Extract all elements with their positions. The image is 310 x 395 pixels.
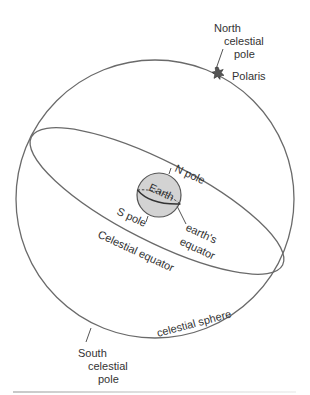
polaris-label: Polaris xyxy=(232,70,266,82)
north-celestial-pole-label-3: pole xyxy=(234,48,255,60)
earth: Earth xyxy=(137,168,181,222)
bottom-divider xyxy=(13,391,296,393)
south-celestial-pole-label-2: celestial xyxy=(88,360,128,372)
north-celestial-pole-leader xyxy=(216,49,223,69)
n-pole-tick xyxy=(169,168,171,174)
south-celestial-pole-label-1: South xyxy=(78,347,107,359)
celestial-sphere-diagram: Earth N pole S pole earth's equator Cele… xyxy=(0,0,310,395)
north-celestial-pole-label-1: North xyxy=(214,22,241,34)
celestial-sphere-label: celestial sphere xyxy=(155,308,232,339)
north-celestial-pole-label-2: celestial xyxy=(224,35,264,47)
south-celestial-pole-label-3: pole xyxy=(98,373,119,385)
south-celestial-pole-leader xyxy=(86,328,91,342)
earths-equator-leader xyxy=(177,206,186,224)
n-pole-label: N pole xyxy=(173,162,207,186)
